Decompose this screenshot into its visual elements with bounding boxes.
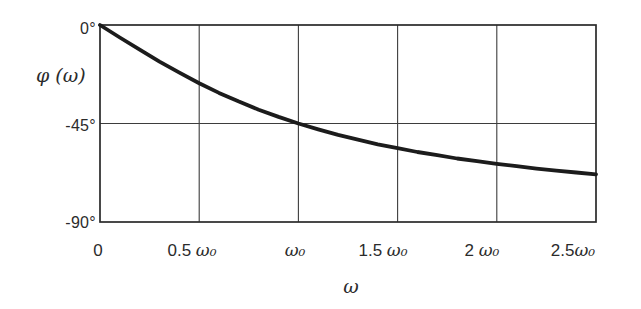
y-tick-0deg: 0° xyxy=(0,20,96,38)
x-tick-w0-symbol: ω₀ xyxy=(285,240,306,260)
x-tick-w0: ω₀ xyxy=(285,240,306,261)
y-axis-label: φ (ω) xyxy=(36,64,86,86)
y-tick-neg45deg: -45° xyxy=(0,117,96,135)
grid-lines xyxy=(100,25,596,222)
phase-curve xyxy=(100,25,596,174)
x-tick-0: 0 xyxy=(93,240,102,261)
x-tick-2w0-symbol: ω₀ xyxy=(479,240,500,260)
x-tick-2p5w0: 2.5ω₀ xyxy=(551,240,595,261)
x-tick-2w0-number: 2 xyxy=(465,241,479,260)
x-tick-0p5w0-symbol: ω₀ xyxy=(196,240,217,260)
x-tick-1p5w0: 1.5 ω₀ xyxy=(358,240,407,261)
x-tick-2p5w0-number: 2.5 xyxy=(551,241,575,260)
x-tick-2w0: 2 ω₀ xyxy=(465,240,500,261)
x-tick-1p5w0-symbol: ω₀ xyxy=(387,240,408,260)
x-tick-0p5w0: 0.5 ω₀ xyxy=(167,240,216,261)
x-tick-0-number: 0 xyxy=(93,241,102,260)
x-tick-2p5w0-symbol: ω₀ xyxy=(574,240,595,260)
y-tick-neg90deg: -90° xyxy=(0,214,96,232)
x-tick-1p5w0-number: 1.5 xyxy=(358,241,386,260)
x-tick-0p5w0-number: 0.5 xyxy=(167,241,195,260)
phase-chart-svg xyxy=(0,0,641,309)
x-axis-label: ω xyxy=(343,275,359,297)
phase-plot-figure: φ (ω) 0° -45° -90° 0 0.5 ω₀ ω₀ 1.5 ω₀ 2 … xyxy=(0,0,641,309)
